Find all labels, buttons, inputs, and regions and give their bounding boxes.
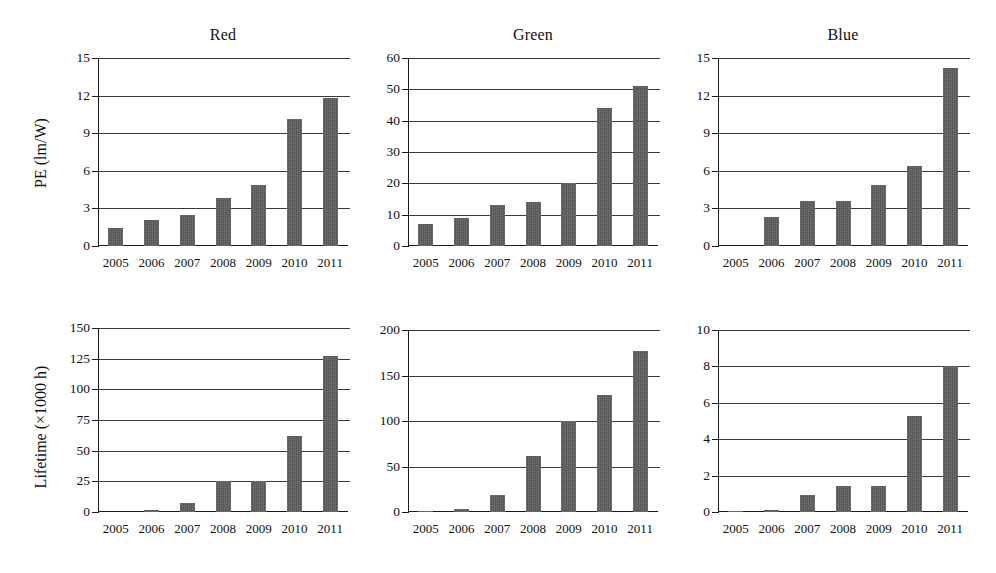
x-tick-label: 2009 — [241, 256, 277, 269]
gridline — [408, 421, 660, 422]
bar — [907, 166, 922, 246]
gridline — [718, 439, 970, 440]
plot-area-blue-lifetime — [718, 330, 968, 512]
y-tick-mark — [402, 421, 409, 422]
x-tick-label: 2005 — [408, 522, 444, 535]
y-tick-mark — [712, 58, 719, 59]
x-tick-label: 2009 — [861, 256, 897, 269]
y-tick-label: 0 — [670, 505, 710, 519]
gridline — [718, 171, 970, 172]
x-tick-label: 2006 — [754, 522, 790, 535]
x-tick-label: 2008 — [515, 256, 551, 269]
plot-area-blue-pe — [718, 58, 968, 246]
y-tick-label: 3 — [50, 201, 90, 215]
y-tick-label: 0 — [50, 239, 90, 253]
gridline — [98, 58, 350, 59]
x-tick-label: 2005 — [98, 256, 134, 269]
y-tick-label: 3 — [670, 201, 710, 215]
y-tick-label: 9 — [670, 126, 710, 140]
gridline — [98, 451, 350, 452]
x-tick-label: 2009 — [551, 522, 587, 535]
x-tick-label: 2007 — [169, 522, 205, 535]
bar — [764, 510, 779, 512]
x-tick-label: 2011 — [312, 522, 348, 535]
x-tick-label: 2010 — [277, 256, 313, 269]
bar — [323, 98, 338, 246]
bar — [633, 351, 648, 512]
y-tick-label: 150 — [360, 369, 400, 383]
bar — [871, 486, 886, 512]
bar — [108, 228, 123, 246]
x-tick-label: 2006 — [444, 256, 480, 269]
gridline — [98, 328, 350, 329]
y-tick-mark — [712, 133, 719, 134]
x-tick-label: 2006 — [134, 522, 170, 535]
bar — [287, 119, 302, 246]
x-tick-label: 2006 — [134, 256, 170, 269]
bar — [728, 511, 743, 512]
y-tick-mark — [712, 403, 719, 404]
x-tick-label: 2005 — [408, 256, 444, 269]
gridline — [718, 330, 970, 331]
bar — [251, 481, 266, 512]
y-tick-label: 10 — [670, 323, 710, 337]
x-tick-label: 2005 — [718, 522, 754, 535]
y-tick-label: 0 — [360, 239, 400, 253]
y-tick-label: 4 — [670, 432, 710, 446]
plot-area-green-lifetime — [408, 330, 658, 512]
plot-area-red-pe — [98, 58, 348, 246]
y-tick-mark — [402, 512, 409, 513]
y-tick-mark — [712, 366, 719, 367]
bar — [418, 511, 433, 512]
y-tick-label: 125 — [50, 352, 90, 366]
y-tick-label: 8 — [670, 359, 710, 373]
bar — [180, 215, 195, 246]
y-tick-label: 2 — [670, 469, 710, 483]
bar — [943, 68, 958, 246]
y-tick-label: 15 — [50, 51, 90, 65]
y-tick-label: 0 — [360, 505, 400, 519]
y-tick-label: 50 — [360, 82, 400, 96]
y-tick-mark — [402, 58, 409, 59]
chart-panel-blue-pe: Blue036912152005200620072008200920102011 — [0, 0, 996, 573]
y-tick-mark — [92, 208, 99, 209]
y-tick-label: 20 — [360, 176, 400, 190]
y-tick-label: 12 — [670, 89, 710, 103]
y-tick-mark — [402, 183, 409, 184]
y-tick-mark — [712, 512, 719, 513]
bar — [800, 495, 815, 512]
y-tick-label: 12 — [50, 89, 90, 103]
y-tick-label: 100 — [50, 382, 90, 396]
y-tick-mark — [92, 389, 99, 390]
bar — [943, 366, 958, 512]
y-tick-mark — [92, 96, 99, 97]
chart-panel-red-lifetime: 0255075100125150200520062007200820092010… — [0, 0, 996, 573]
gridline — [408, 152, 660, 153]
bar — [836, 486, 851, 512]
x-tick-label: 2006 — [444, 522, 480, 535]
gridline — [408, 89, 660, 90]
y-tick-mark — [92, 171, 99, 172]
y-tick-label: 75 — [50, 413, 90, 427]
gridline — [98, 208, 350, 209]
y-tick-mark — [92, 359, 99, 360]
bar — [144, 510, 159, 512]
bar — [251, 185, 266, 246]
x-tick-label: 2010 — [587, 522, 623, 535]
gridline — [408, 330, 660, 331]
y-tick-mark — [402, 246, 409, 247]
x-tick-label: 2011 — [932, 522, 968, 535]
x-tick-label: 2009 — [861, 522, 897, 535]
gridline — [718, 96, 970, 97]
bar — [323, 356, 338, 512]
x-tick-label: 2006 — [754, 256, 790, 269]
x-tick-label: 2007 — [479, 256, 515, 269]
x-tick-label: 2010 — [897, 522, 933, 535]
gridline — [408, 215, 660, 216]
bar — [144, 220, 159, 246]
y-tick-mark — [402, 376, 409, 377]
x-tick-label: 2005 — [98, 522, 134, 535]
gridline — [98, 96, 350, 97]
bar — [526, 456, 541, 512]
x-tick-label: 2011 — [622, 256, 658, 269]
